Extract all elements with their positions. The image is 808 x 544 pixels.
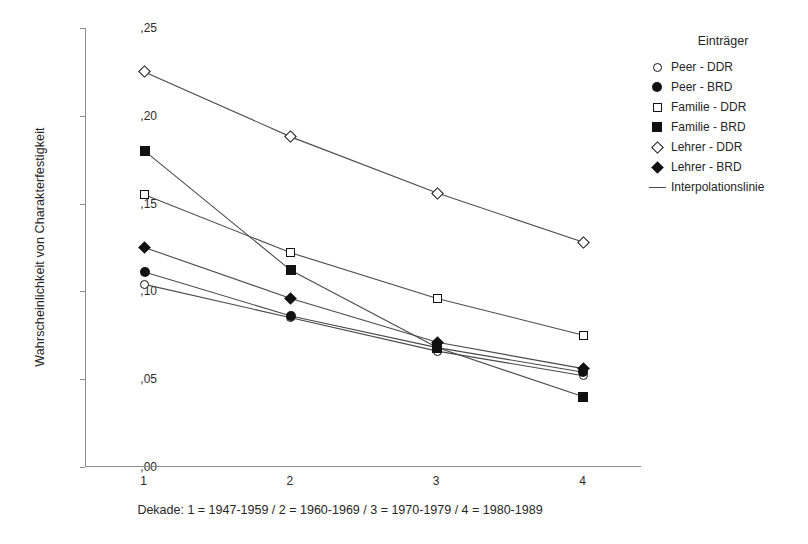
legend-item-label: Lehrer - BRD [671,160,742,174]
legend-item: Interpolationslinie [648,177,806,197]
plot-area [85,28,641,467]
series-line [145,195,584,335]
line-legend-icon [648,178,666,196]
legend-item-label: Interpolationslinie [671,180,764,194]
diamond-open-marker-icon [651,141,664,154]
square-open-marker-icon [653,103,662,112]
circle-open-legend-icon [648,58,666,76]
legend-item: Familie - DDR [648,97,806,117]
legend-item-label: Familie - BRD [671,120,746,134]
square-open-legend-icon [648,98,666,116]
square-fill-legend-icon [648,118,666,136]
legend-item: Familie - BRD [648,117,806,137]
square-open-marker-icon [140,190,149,199]
square-fill-marker-icon [286,265,296,275]
series-line [145,72,584,242]
legend-item: Lehrer - DDR [648,137,806,157]
x-tick-label: 3 [416,474,456,488]
legend-item: Peer - BRD [648,77,806,97]
circle-open-marker-icon [140,280,149,289]
line-marker-icon [649,187,666,188]
square-open-marker-icon [579,331,588,340]
x-axis-title: Dekade: 1 = 1947-1959 / 2 = 1960-1969 / … [0,503,680,517]
series-lines [86,28,642,467]
y-tick-mark [80,467,85,468]
legend-item: Lehrer - BRD [648,157,806,177]
chart-figure: Wahrscheinlichkeit von Charakterfestigke… [0,0,808,544]
x-tick-label: 1 [124,474,164,488]
legend-items: Peer - DDRPeer - BRDFamilie - DDRFamilie… [648,57,806,197]
series-line [145,284,584,375]
x-tick-label: 4 [562,474,602,488]
square-fill-marker-icon [652,122,662,132]
diamond-open-legend-icon [648,138,666,156]
square-fill-marker-icon [578,392,588,402]
legend: Einträger Peer - DDRPeer - BRDFamilie - … [648,34,806,197]
circle-open-marker-icon [653,63,662,72]
series-line [145,151,584,397]
square-open-marker-icon [286,248,295,257]
circle-fill-legend-icon [648,78,666,96]
y-axis-title: Wahrscheinlichkeit von Charakterfestigke… [33,37,47,457]
square-open-marker-icon [433,294,442,303]
legend-title: Einträger [648,34,806,48]
circle-fill-marker-icon [140,267,150,277]
square-fill-marker-icon [140,146,150,156]
circle-fill-marker-icon [286,311,296,321]
legend-item-label: Familie - DDR [671,100,746,114]
series-line [145,248,584,369]
legend-item-label: Peer - DDR [671,60,733,74]
legend-item-label: Peer - BRD [671,80,732,94]
legend-item-label: Lehrer - DDR [671,140,742,154]
x-tick-label: 2 [270,474,310,488]
diamond-fill-legend-icon [648,158,666,176]
circle-fill-marker-icon [652,82,662,92]
diamond-fill-marker-icon [651,161,664,174]
legend-item: Peer - DDR [648,57,806,77]
